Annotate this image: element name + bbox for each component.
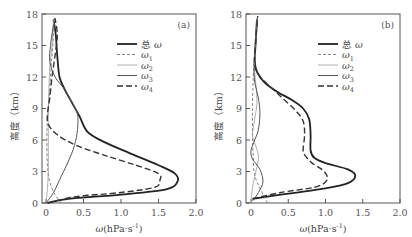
panel-b: 036912151800.51.01.52.0ω(hPa·s-1)高度（km）(… (213, 9, 408, 235)
x-tick-label: 1.0 (113, 207, 128, 218)
x-tick-label: 2.0 (392, 207, 407, 218)
y-axis-title: 高度（km） (9, 86, 20, 141)
y-tick-label: 15 (230, 40, 242, 51)
x-tick-label: 0.5 (281, 207, 296, 218)
y-tick-label: 18 (230, 9, 242, 20)
y-tick-label: 18 (26, 9, 38, 20)
y-tick-label: 6 (236, 135, 242, 146)
y-tick-label: 3 (32, 166, 38, 177)
y-tick-label: 9 (236, 103, 242, 114)
x-axis-title: ω(hPa·s-1) (95, 222, 142, 234)
plot-frame (246, 14, 400, 203)
legend-label: 总 ω (342, 39, 363, 50)
plot-frame (42, 14, 196, 203)
legend: 总 ωω1ω2ω3ω4 (117, 39, 162, 95)
y-tick-label: 3 (236, 166, 242, 177)
y-axis-title: 高度（km） (213, 86, 224, 141)
legend-label: 总 ω (141, 39, 162, 50)
y-tick-label: 12 (230, 72, 242, 83)
y-tick-label: 0 (32, 198, 38, 209)
x-axis-title: ω(hPa·s-1) (299, 222, 346, 234)
series-line-omega-4 (253, 16, 328, 199)
series-line-omega-total (253, 19, 356, 199)
x-tick-label: 1.5 (355, 207, 370, 218)
legend: 总 ωω1ω2ω3ω4 (318, 39, 363, 95)
x-tick-label: 0 (43, 207, 49, 218)
panel-label: (b) (381, 20, 394, 30)
series-line-omega-3 (46, 25, 78, 204)
chart-figure: 036912151800.51.01.52.0ω(hPa·s-1)高度（km）(… (0, 0, 412, 237)
y-tick-label: 6 (32, 135, 38, 146)
x-tick-label: 2.0 (188, 207, 203, 218)
x-tick-label: 1.0 (318, 207, 333, 218)
y-tick-label: 9 (32, 103, 38, 114)
y-tick-label: 12 (26, 72, 38, 83)
series-line-omega-1 (47, 18, 61, 203)
x-tick-label: 1.5 (151, 207, 166, 218)
y-tick-label: 15 (26, 40, 38, 51)
panel-a: 036912151800.51.01.52.0ω(hPa·s-1)高度（km）(… (9, 9, 204, 235)
x-tick-label: 0 (248, 207, 254, 218)
panel-label: (a) (178, 20, 190, 30)
x-tick-label: 0.5 (76, 207, 91, 218)
y-tick-label: 0 (236, 198, 242, 209)
